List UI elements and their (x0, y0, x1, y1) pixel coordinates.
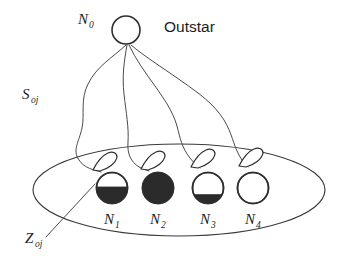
label-outstar-title: Outstar (164, 18, 215, 35)
axon-path-to-n1 (76, 45, 126, 172)
synapse-cone-n3 (191, 149, 215, 168)
axon-path-to-n4 (131, 45, 248, 167)
source-node-n0 (112, 16, 140, 44)
label-soj: S oj (22, 86, 39, 105)
label-node-n2: N 2 (149, 211, 166, 230)
label-zoj-subscript: oj (35, 239, 43, 249)
label-soj-subscript: oj (31, 95, 39, 105)
target-node-n1 (96, 173, 128, 205)
label-n2-subscript: 2 (161, 220, 166, 230)
label-n4-subscript: 4 (256, 220, 261, 230)
label-zoj: Z oj (25, 230, 43, 249)
label-node-n4: N 4 (244, 211, 261, 230)
label-n0: N 0 (77, 11, 94, 30)
label-n3-subscript: 3 (210, 220, 216, 230)
trace-leader-line (46, 184, 95, 237)
node-field-ellipse (33, 144, 325, 236)
synapse-cone-n1 (93, 152, 117, 171)
label-node-n1: N 1 (103, 211, 120, 230)
node-fill-n1 (96, 187, 128, 205)
leader-line-zoj (46, 184, 95, 237)
label-n0-subscript: 0 (89, 20, 94, 30)
label-n4-name: N (244, 211, 256, 227)
label-n3-name: N (199, 211, 211, 227)
axon-path-to-n3 (129, 45, 200, 168)
synapse-cone-n2 (141, 151, 165, 170)
label-n1-name: N (103, 211, 115, 227)
label-n2-name: N (149, 211, 161, 227)
target-node-n2 (142, 173, 174, 205)
target-node-n3 (192, 173, 224, 205)
label-n0-name: N (77, 11, 89, 27)
synapse-cone-n4 (239, 148, 263, 167)
label-n1-subscript: 1 (115, 220, 120, 230)
label-zoj-name: Z (25, 230, 34, 246)
outstar-diagram: N 0 Outstar S oj Z oj N 1 N 2 N 3 N 4 (0, 0, 342, 256)
axon-path-to-n2 (123, 45, 149, 171)
label-node-n3: N 3 (199, 211, 216, 230)
target-node-n4 (238, 173, 269, 204)
label-soj-name: S (22, 86, 30, 102)
